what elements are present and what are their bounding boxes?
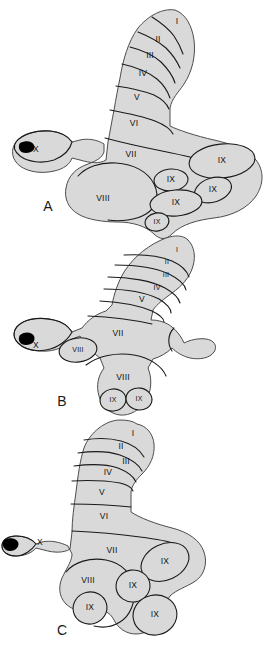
panel-label-c: C — [57, 622, 67, 638]
lobule-label-c-iii: III — [122, 456, 130, 466]
panel-b: IIIIIIIVVVIIVIIIXVIIIIXIX B — [14, 236, 216, 415]
lobule-label-c-ix-3: IX — [151, 609, 160, 619]
lobule-label-b-vii: VII — [113, 328, 124, 338]
panel-b-outline — [14, 236, 216, 415]
lobule-label-c-ix-1: IX — [161, 556, 170, 566]
panel-label-a: A — [43, 198, 53, 214]
lobule-label-a-iii: III — [146, 50, 154, 60]
lobule-label-b-viii-2: VIII — [116, 372, 130, 382]
lobule-label-c-vii: VII — [107, 545, 118, 555]
lobule-label-a-vi: VI — [130, 118, 138, 128]
lobule-label-a-v: V — [134, 92, 140, 102]
lobule-label-c-iv: IV — [104, 467, 113, 477]
lobule-label-a-i: I — [176, 16, 179, 26]
lobule-label-c-ix-4: IX — [86, 602, 95, 612]
lobule-label-c-viii: VIII — [81, 575, 95, 585]
lobule-label-b-x: X — [33, 340, 39, 350]
lobule-label-b-v: V — [139, 294, 145, 304]
lobule-label-b-ix-1: IX — [109, 396, 116, 403]
lobule-label-c-i: I — [132, 428, 135, 438]
lobule-label-b-ii: II — [165, 258, 169, 265]
lobule-label-b-viii-1: VIII — [72, 346, 83, 353]
cerebellum-figure: IIIIIIIVVVIVIIVIIIXIXIXIXIXIX A IIII — [0, 0, 273, 649]
lobule-label-a-ii: II — [155, 34, 160, 44]
lobule-label-a-vii: VII — [126, 149, 137, 159]
panel-label-b: B — [57, 393, 66, 409]
lobule-label-c-vi: VI — [100, 511, 108, 521]
lobule-label-b-i: I — [176, 246, 178, 253]
lobule-label-c-x: X — [37, 537, 43, 547]
lobule-label-b-iv: IV — [153, 284, 160, 291]
lobule-label-a-ix-5: IX — [153, 218, 160, 225]
lobule-label-a-x: X — [33, 144, 39, 154]
lobule-label-b-iii: III — [163, 271, 169, 278]
lobule-label-a-ix-2: IX — [167, 174, 176, 184]
panel-a: IIIIIIIVVVIVIIVIIIXIXIXIXIXIX A — [13, 10, 262, 239]
lobule-label-a-iv: IV — [139, 68, 148, 78]
lobule-label-c-v: V — [99, 487, 105, 497]
lobule-label-a-ix-1: IX — [218, 155, 227, 165]
lobule-label-a-ix-3: IX — [209, 184, 218, 194]
lobule-label-a-viii: VIII — [96, 193, 110, 203]
lobule-label-c-ix-2: IX — [129, 580, 138, 590]
lobule-label-a-ix-4: IX — [172, 197, 181, 207]
lobule-label-b-ix-2: IX — [135, 395, 142, 402]
panel-c: IIIIIIIVVVIVIIXVIIIIXIXIXIX C — [2, 420, 206, 639]
lobule-label-c-ii: II — [118, 441, 123, 451]
